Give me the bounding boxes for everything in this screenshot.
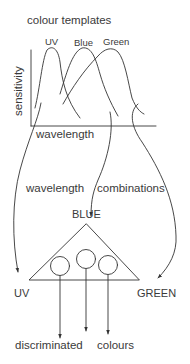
blue-sensitivity-curve [60,48,118,116]
colour-triangle [29,224,139,280]
curve-label-uv: UV [45,37,58,47]
colour-point-3 [99,256,118,275]
colour-point-1 [51,257,70,276]
colour-point-2 [77,250,96,269]
colour-vision-diagram: colour templates UV Blue Green sensitivi… [0,0,190,364]
vertex-label-uv: UV [14,288,29,299]
middle-label-combinations: combinations [97,183,165,195]
middle-label-wavelength: wavelength [26,183,84,195]
bottom-label-discriminated: discriminated [15,340,83,352]
curve-label-green: Green [103,37,129,47]
x-axis-label: wavelength [36,129,94,141]
green-sensitivity-curve [63,49,144,114]
vertex-label-blue: BLUE [72,209,101,220]
blue-arrow [91,112,111,216]
vertex-label-green: GREEN [137,288,176,299]
y-axis-label: sensitivity [13,66,25,116]
bottom-label-colours: colours [97,340,134,352]
curve-label-blue: Blue [74,38,93,48]
diagram-title: colour templates [27,15,111,27]
